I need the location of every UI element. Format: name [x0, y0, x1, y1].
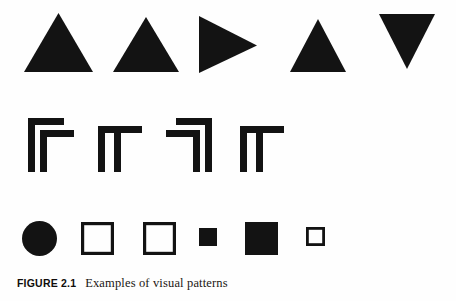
nested-gamma-left: [28, 118, 74, 172]
blobs-row: [0, 212, 456, 272]
square-filled-small: [199, 228, 217, 246]
angular-row: [0, 110, 456, 182]
double-stem-left: [98, 126, 142, 172]
triangle-down-1: [379, 14, 435, 69]
square-outline-1: [81, 222, 114, 255]
triangle-up-3: [290, 19, 346, 72]
triangle-right-1: [199, 16, 257, 73]
figure-2-1: FIGURE 2.1 Examples of visual patterns: [0, 0, 456, 301]
figure-caption: FIGURE 2.1 Examples of visual patterns: [17, 276, 437, 294]
square-filled-large: [245, 222, 278, 255]
nested-gamma-right: [166, 118, 212, 172]
square-outline-tiny: [306, 227, 325, 246]
triangle-up-1: [24, 13, 93, 72]
square-outline-2: [143, 222, 176, 255]
figure-caption-text: Examples of visual patterns: [85, 276, 228, 291]
double-stem-right: [240, 126, 284, 172]
figure-image-plate: [0, 0, 456, 272]
triangle-up-2: [113, 17, 179, 72]
triangles-row: [0, 0, 456, 100]
circle-filled: [22, 221, 57, 256]
figure-caption-label: FIGURE 2.1: [17, 277, 76, 289]
